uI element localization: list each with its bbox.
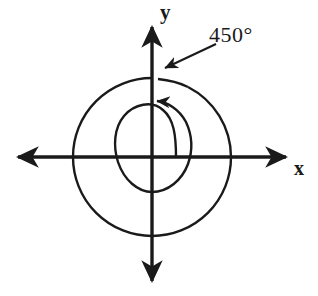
angle-measure-label: 450°: [209, 24, 253, 46]
angle-diagram: [0, 0, 318, 296]
spiral-transition: [158, 79, 188, 87]
x-axis-label: x: [294, 158, 304, 178]
y-axis-label: y: [160, 2, 171, 23]
angle-label-leader-line: [165, 44, 216, 68]
figure-canvas: y x 450°: [0, 0, 318, 296]
